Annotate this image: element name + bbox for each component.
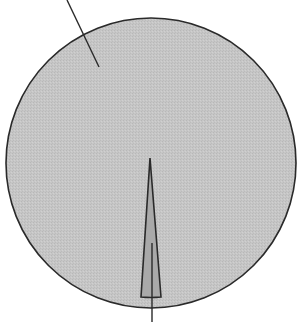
pie-chart <box>0 0 303 324</box>
